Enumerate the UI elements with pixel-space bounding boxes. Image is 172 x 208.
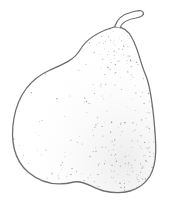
pear-stem (115, 10, 144, 28)
pear-illustration (0, 0, 172, 208)
